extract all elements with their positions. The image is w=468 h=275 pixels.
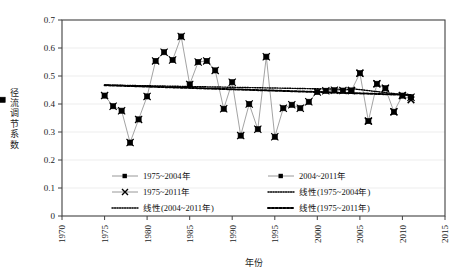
x-tick-label: 1985	[185, 225, 195, 244]
legend-label: 1975~2004年	[143, 171, 191, 181]
y-tick-label: 0	[51, 211, 56, 221]
runoff-regulation-coefficient-chart: 00.10.20.30.40.50.60.7197019751980198519…	[0, 0, 468, 275]
y-axis-title-char: 系	[10, 129, 19, 139]
y-tick-label: 0.2	[44, 155, 55, 165]
legend-label: 线性(1975~2004年)	[299, 187, 370, 197]
x-tick-label: 1970	[57, 225, 67, 244]
y-axis-title-char: 数	[10, 139, 19, 150]
y-tick-label: 0.3	[44, 127, 56, 137]
legend-item[interactable]: 1975~2011年	[112, 187, 190, 197]
y-tick-label: 0.6	[44, 43, 56, 53]
x-tick-label: 2015	[440, 225, 450, 244]
x-tick-label: 1975	[100, 225, 110, 244]
legend-marker-square	[123, 174, 127, 178]
x-axis-title: 年份	[245, 257, 263, 268]
y-axis-title: 径流调节系数	[10, 87, 19, 150]
x-tick-label: 2000	[313, 225, 323, 244]
y-tick-label: 0.4	[44, 99, 56, 109]
x-tick-label: 1980	[143, 225, 153, 244]
legend-item[interactable]: 线性(1975~2011年)	[268, 203, 370, 213]
data-point-marker	[0, 97, 5, 102]
plot-area-border	[62, 20, 445, 216]
y-tick-label: 0.5	[44, 71, 56, 81]
x-tick-label: 1990	[228, 225, 238, 244]
y-tick-label: 0.7	[44, 15, 56, 25]
legend-label: 2004~2011年	[299, 171, 346, 181]
legend-label: 线性(1975~2011年)	[299, 203, 370, 213]
y-axis-title-char: 径	[10, 87, 19, 98]
legend-marker-square	[279, 174, 283, 178]
y-axis-title-char: 节	[10, 119, 19, 129]
x-tick-label: 2005	[355, 225, 365, 244]
legend-label: 1975~2011年	[143, 187, 190, 197]
x-tick-label: 1995	[270, 225, 280, 244]
chart-figure: 00.10.20.30.40.50.60.7197019751980198519…	[0, 0, 468, 275]
legend-item[interactable]: 1975~2004年	[112, 171, 191, 181]
x-tick-label: 2010	[398, 225, 408, 244]
legend-item[interactable]: 2004~2011年	[268, 171, 346, 181]
y-axis-title-char: 调	[10, 108, 19, 118]
y-tick-label: 0.1	[44, 183, 55, 193]
legend-label: 线性(2004~2011年)	[143, 203, 214, 213]
legend-item[interactable]: 线性(1975~2004年)	[268, 187, 370, 197]
legend-item[interactable]: 线性(2004~2011年)	[112, 203, 214, 213]
y-axis-title-char: 流	[10, 97, 19, 108]
